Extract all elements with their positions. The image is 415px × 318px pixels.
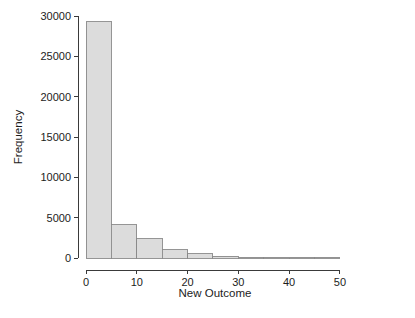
histogram-bar bbox=[213, 256, 238, 258]
x-axis-tick-label: 50 bbox=[334, 276, 346, 288]
histogram-figure: 050001000015000200002500030000 010203040… bbox=[0, 0, 415, 318]
histogram-bar bbox=[238, 257, 263, 258]
y-axis-title: Frequency bbox=[12, 110, 24, 165]
histogram-bar bbox=[137, 239, 162, 258]
y-axis-tick-label: 15000 bbox=[40, 131, 71, 143]
histogram-bar bbox=[289, 257, 314, 258]
histogram-bar bbox=[162, 250, 187, 258]
y-axis-tick-label: 25000 bbox=[40, 50, 71, 62]
plot-canvas: 050001000015000200002500030000 010203040… bbox=[0, 0, 415, 318]
y-axis-tick-label: 10000 bbox=[40, 171, 71, 183]
histogram-bar bbox=[315, 257, 340, 258]
y-axis-tick-label: 5000 bbox=[47, 212, 71, 224]
y-axis-tick-label: 0 bbox=[65, 252, 71, 264]
x-axis-tick-label: 40 bbox=[283, 276, 295, 288]
x-axis-tick-label: 0 bbox=[83, 276, 89, 288]
histogram-bar bbox=[188, 254, 213, 258]
x-axis-title: New Outcome bbox=[179, 287, 252, 299]
histogram-bar bbox=[264, 257, 289, 258]
x-axis-tick-label: 10 bbox=[131, 276, 143, 288]
histogram-bar bbox=[86, 22, 111, 258]
y-axis-tick-label: 30000 bbox=[40, 10, 71, 22]
histogram-bar bbox=[111, 225, 136, 258]
y-axis-tick-label: 20000 bbox=[40, 91, 71, 103]
